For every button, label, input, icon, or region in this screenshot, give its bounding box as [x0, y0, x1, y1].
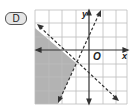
inequality-graph: y x O [0, 0, 132, 111]
shaded-region [35, 28, 76, 104]
grid [35, 10, 127, 104]
origin-label: O [93, 51, 101, 62]
x-axis-label: x [121, 51, 128, 61]
arrow-up-left-icon [37, 24, 44, 30]
y-axis-label: y [81, 9, 88, 19]
arrow-up-right-icon [96, 10, 101, 17]
